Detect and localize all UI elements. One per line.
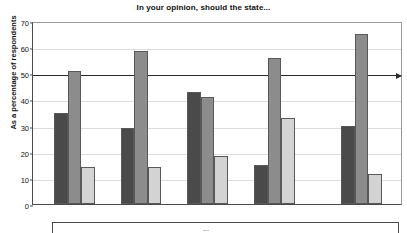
y-tick-mark [30,127,33,128]
y-tick-mark [30,23,33,24]
bar-group [54,23,95,204]
bar [214,156,228,204]
bar-group [341,23,382,204]
bar [201,97,215,204]
reference-line [33,75,401,76]
gridline [33,101,401,102]
bar-group [121,23,162,204]
bar [268,58,282,204]
y-tick-mark [30,101,33,102]
y-tick-label: 20 [21,149,29,158]
chart-title: In your opinion, should the state... [0,3,407,12]
y-tick-label: 0 [25,202,29,211]
y-tick-label: 40 [21,97,29,106]
bar [281,118,295,204]
y-tick-mark [30,49,33,50]
bar [254,165,268,204]
bar [121,128,135,204]
reference-line-arrow-icon [396,73,402,79]
bar-group [187,23,228,204]
bar [134,51,148,204]
y-tick-label: 60 [21,45,29,54]
plot-area: 010203040506070 [32,22,402,205]
y-axis-title: As a percentage of respondents [9,0,18,148]
bar [341,126,355,204]
y-tick-mark [30,179,33,180]
bars-layer [33,23,401,204]
bar [187,92,201,204]
y-tick-mark [30,206,33,207]
bar [355,34,369,204]
bar [81,167,95,204]
bar [54,113,68,205]
bar [368,174,382,204]
legend-clipped-text: ... [203,225,209,232]
chart-legend: ... [52,222,399,233]
y-tick-mark [30,153,33,154]
bar [148,167,162,204]
gridline [33,49,401,50]
bar-chart: In your opinion, should the state... As … [0,0,407,233]
y-tick-label: 50 [21,71,29,80]
bar [68,71,82,204]
y-tick-label: 10 [21,175,29,184]
y-tick-label: 30 [21,123,29,132]
bar-group [254,23,295,204]
y-tick-label: 70 [21,19,29,28]
